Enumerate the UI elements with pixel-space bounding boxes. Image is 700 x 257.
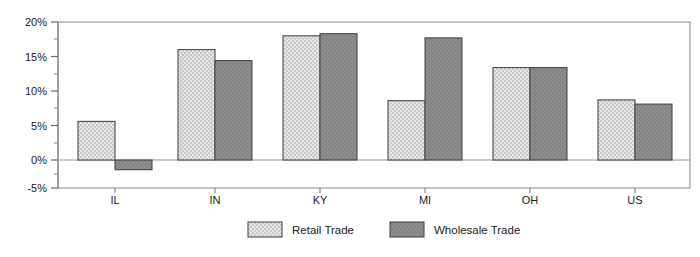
x-axis-label-MI: MI [419,194,431,206]
bar-retail-OH [493,68,530,160]
bar-retail-IL [78,121,115,160]
y-axis-tick-labels: 20% 15% 10% 5% 0% -5% [25,16,47,194]
bar-retail-IN [178,50,215,160]
y-tick-label: 10% [25,85,47,97]
bar-group-KY: KY [283,34,357,206]
bar-group-US: US [598,100,672,206]
bar-group-IN: IN [178,50,252,206]
x-axis-label-US: US [627,194,642,206]
y-tick-label: 20% [25,16,47,28]
x-axis-label-KY: KY [313,194,328,206]
bar-group-OH: OH [493,68,567,206]
bar-group-MI: MI [388,38,462,206]
y-tick-label: 15% [25,51,47,63]
bar-wholesale-IN [215,61,252,160]
x-axis-label-OH: OH [522,194,539,206]
bar-group-IL: IL [78,121,152,206]
plot-border [58,22,690,188]
bar-retail-US [598,100,635,160]
x-axis-label-IN: IN [210,194,221,206]
bar-wholesale-MI [425,38,462,160]
legend-swatch-retail-trade [248,222,282,237]
legend-label-wholesale-trade: Wholesale Trade [434,224,520,236]
legend-label-retail-trade: Retail Trade [292,224,354,236]
bar-wholesale-KY [320,34,357,160]
bar-wholesale-US [635,104,672,160]
bar-wholesale-OH [530,68,567,160]
y-tick-label: 0% [31,154,47,166]
x-axis-label-IL: IL [110,194,119,206]
chart-legend: Retail Trade Wholesale Trade [248,222,520,237]
legend-swatch-wholesale-trade [390,222,424,237]
bar-retail-MI [388,101,425,160]
y-tick-label: -5% [27,182,47,194]
y-axis-major-ticks [51,22,58,188]
y-tick-label: 5% [31,120,47,132]
bar-retail-KY [283,36,320,160]
plot-area-frame [58,22,690,188]
bar-chart-figure: 20% 15% 10% 5% 0% -5% IL IN KY [0,0,700,257]
bar-wholesale-IL [115,160,152,170]
chart-canvas: 20% 15% 10% 5% 0% -5% IL IN KY [0,0,700,257]
